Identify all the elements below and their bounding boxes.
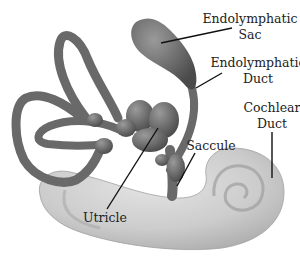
saccule-shape xyxy=(167,154,185,182)
leader-line-endolymphatic-duct xyxy=(196,73,222,88)
inner-ear-diagram: Endolymphatic Sac Endolymphatic Duct Coc… xyxy=(0,0,300,260)
endolymphatic-sac-shape xyxy=(131,18,196,89)
label-endolymphatic-duct-line2: Duct xyxy=(243,71,273,86)
label-cochlear-duct: Cochlear Duct xyxy=(244,100,300,131)
vestibule-structures xyxy=(87,100,185,182)
label-endolymphatic-sac: Endolymphatic Sac xyxy=(202,11,297,42)
label-saccule: Saccule xyxy=(186,138,235,153)
label-endolymphatic-sac-line2: Sac xyxy=(238,27,261,42)
label-cochlear-duct-line2: Duct xyxy=(257,116,287,131)
label-utricle: Utricle xyxy=(83,210,127,225)
label-endolymphatic-duct-line1: Endolymphatic xyxy=(210,55,300,70)
label-endolymphatic-sac-line1: Endolymphatic xyxy=(202,11,297,26)
label-endolymphatic-duct: Endolymphatic Duct xyxy=(210,55,300,86)
label-cochlear-duct-line1: Cochlear xyxy=(244,100,300,115)
